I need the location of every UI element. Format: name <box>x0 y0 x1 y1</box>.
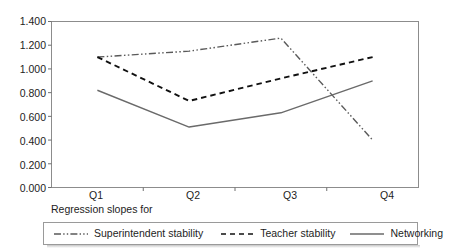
x-tick-label-q1: Q1 <box>76 189 116 201</box>
series-line-networking <box>97 81 372 127</box>
series-line-superintendent-stability <box>97 38 372 140</box>
legend-label-teacher-stability: Teacher stability <box>260 228 335 239</box>
legend-item-teacher-stability: Teacher stability <box>219 228 335 239</box>
plot-area: 1.400 1.200 1.000 0.800 0.600 0.400 0.20… <box>0 0 462 196</box>
dashed-line-icon <box>219 229 255 239</box>
dash-dot-line-icon <box>53 229 89 239</box>
solid-line-icon <box>349 229 385 239</box>
legend-shadow <box>47 245 420 248</box>
chart-caption: Regression slopes for <box>51 203 153 215</box>
legend-label-superintendent-stability: Superintendent stability <box>94 228 203 239</box>
regression-slopes-figure: 1.400 1.200 1.000 0.800 0.600 0.400 0.20… <box>0 0 462 251</box>
plot-frame <box>52 22 419 188</box>
x-tick-label-q2: Q2 <box>173 189 213 201</box>
legend-item-networking: Networking <box>349 228 443 239</box>
legend-item-superintendent-stability: Superintendent stability <box>53 228 203 239</box>
x-tick-label-q4: Q4 <box>367 189 407 201</box>
y-tick-marks <box>48 22 52 188</box>
series-lines <box>97 38 372 140</box>
x-tick-label-q3: Q3 <box>270 189 310 201</box>
legend-label-networking: Networking <box>390 228 443 239</box>
chart-legend: Superintendent stability Teacher stabili… <box>43 222 418 245</box>
chart-canvas <box>0 0 462 196</box>
